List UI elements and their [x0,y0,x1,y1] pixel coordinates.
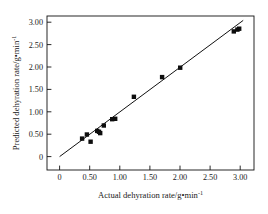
data-point-marker [160,75,164,79]
data-point-marker [80,136,84,140]
data-point-marker [88,140,92,144]
y-axis-tick-labels: 0 0.50 1.00 1.50 2.00 2.50 3.00 [29,18,43,161]
data-points [80,27,242,144]
x-tick-label: 2.00 [173,173,187,182]
x-tick-label: 0 [58,173,62,182]
chart-canvas: 0 0.50 1.00 1.50 2.00 2.50 3.00 0 0.50 1… [0,0,268,214]
y-tick-label: 0 [39,153,43,162]
data-point-marker [178,66,182,70]
x-axis-title-text: Actual dehyration rate/g•min [98,190,199,200]
x-axis-title: Actual dehyration rate/g•min-1 [98,190,203,200]
x-tick-label: 1.00 [113,173,127,182]
y-tick-label: 2.50 [29,41,43,50]
x-axis-ticks [60,166,241,170]
axes-frame [47,16,254,170]
data-point-marker [132,95,136,99]
y-axis-title-text: Predicted dehyration rate/g•min [11,40,21,150]
y-axis-title: Predicted dehyration rate/g•min-1 [11,36,21,151]
x-tick-label: 2.50 [203,173,217,182]
x-axis-tick-labels: 0 0.50 1.00 1.50 2.00 2.50 3.00 [58,173,248,182]
scatter-chart-figure: 0 0.50 1.00 1.50 2.00 2.50 3.00 0 0.50 1… [0,0,268,214]
data-point-marker [237,27,241,31]
data-point-marker [102,123,106,127]
data-point-marker [85,132,89,136]
y-tick-label: 3.00 [29,18,43,27]
x-axis-title-exponent: -1 [198,190,203,196]
y-tick-label: 1.50 [29,85,43,94]
y-axis-ticks [47,22,51,156]
y-axis-title-exponent: -1 [11,36,17,41]
x-tick-label: 1.50 [143,173,157,182]
data-point-marker [98,131,102,135]
data-point-marker [113,117,117,121]
y-tick-label: 1.00 [29,108,43,117]
y-tick-label: 0.50 [29,130,43,139]
x-tick-label: 3.00 [233,173,247,182]
x-tick-label: 0.50 [83,173,97,182]
y-tick-label: 2.00 [29,63,43,72]
